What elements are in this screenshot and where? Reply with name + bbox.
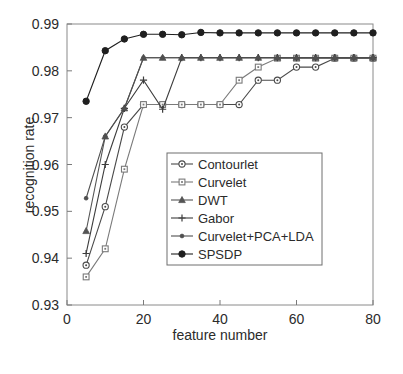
circle-filled-marker <box>159 31 165 37</box>
dot-filled-marker <box>218 56 222 60</box>
legend-label: DWT <box>198 193 228 208</box>
x-axis-title: feature number <box>173 327 268 343</box>
legend-label: Gabor <box>198 211 235 226</box>
dot-filled-marker <box>122 106 126 110</box>
circle-filled-marker <box>312 30 318 36</box>
legend-label: Curvelet <box>198 175 247 190</box>
circle-filled-marker <box>370 30 376 36</box>
chart-figure: 0.930.940.950.960.970.980.99 020406080 r… <box>0 0 403 374</box>
circle-filled-marker <box>198 29 204 35</box>
dot-filled-marker <box>352 56 356 60</box>
circle-filled-marker <box>332 30 338 36</box>
x-tick-label: 20 <box>136 311 152 327</box>
y-tick-label: 0.99 <box>32 16 59 32</box>
dot-filled-marker <box>333 56 337 60</box>
dot-filled-marker <box>256 56 260 60</box>
legend-label: Curvelet+PCA+LDA <box>198 229 314 244</box>
circle-filled-marker <box>83 98 89 104</box>
circle-filled-marker <box>121 36 127 42</box>
circle-filled-marker <box>179 251 185 257</box>
x-tick-label: 0 <box>63 311 71 327</box>
dot-filled-marker <box>199 56 203 60</box>
x-tick-label: 40 <box>212 311 228 327</box>
y-axis-ticks <box>67 24 72 305</box>
y-tick-label: 0.98 <box>32 63 59 79</box>
x-tick-label: 60 <box>289 311 305 327</box>
chart-legend: ContourletCurveletDWTGaborCurvelet+PCA+L… <box>167 153 322 265</box>
series-line <box>86 32 373 101</box>
circle-filled-marker <box>255 30 261 36</box>
dot-filled-marker <box>180 234 184 238</box>
x-axis-ticks <box>67 300 373 305</box>
dot-filled-marker <box>103 135 107 139</box>
legend-label: Contourlet <box>198 157 258 172</box>
y-axis-title: recognition rate <box>21 117 37 214</box>
dot-filled-marker <box>237 56 241 60</box>
legend-label: SPSDP <box>198 247 242 262</box>
dot-filled-marker <box>371 56 375 60</box>
circle-filled-marker <box>293 30 299 36</box>
recognition-rate-line-chart: 0.930.940.950.960.970.980.99 020406080 r… <box>0 0 403 374</box>
circle-filled-marker <box>140 31 146 37</box>
dot-filled-marker <box>180 56 184 60</box>
dot-filled-marker <box>84 196 88 200</box>
dot-filled-marker <box>161 56 165 60</box>
dot-filled-marker <box>314 56 318 60</box>
circle-filled-marker <box>236 30 242 36</box>
circle-filled-marker <box>102 47 108 53</box>
dot-filled-marker <box>275 56 279 60</box>
y-tick-label: 0.93 <box>32 297 59 313</box>
plus-marker <box>140 77 147 84</box>
y-tick-label: 0.94 <box>32 250 59 266</box>
dot-filled-marker <box>142 56 146 60</box>
circle-filled-marker <box>179 32 185 38</box>
x-axis-tick-labels: 020406080 <box>63 311 381 327</box>
circle-filled-marker <box>217 30 223 36</box>
circle-filled-marker <box>274 30 280 36</box>
triangle-filled-marker <box>83 228 90 234</box>
x-tick-label: 80 <box>365 311 381 327</box>
plus-marker <box>102 161 109 168</box>
dot-filled-marker <box>295 56 299 60</box>
circle-filled-marker <box>351 30 357 36</box>
